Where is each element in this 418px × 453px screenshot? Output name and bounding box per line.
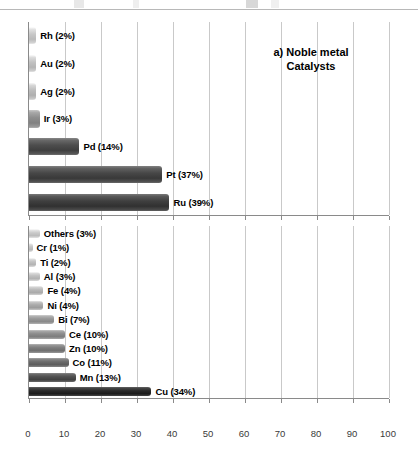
- gridline-50: [209, 226, 210, 398]
- bar-cr: [29, 243, 33, 252]
- x-tick-40: [173, 399, 174, 403]
- bar-row: Co (11%): [29, 358, 112, 367]
- x-tick-100: [389, 216, 390, 220]
- bar-label-cr: Cr (1%): [37, 242, 70, 253]
- x-axis-label-0: 0: [25, 428, 30, 439]
- gridline-40: [173, 22, 174, 215]
- x-tick-50: [209, 216, 210, 220]
- x-tick-10: [65, 216, 66, 220]
- x-tick-60: [245, 216, 246, 220]
- bar-ir: [29, 110, 40, 127]
- x-axis-tick-labels: 0102030405060708090100: [0, 428, 418, 444]
- x-tick-80: [317, 399, 318, 403]
- bar-row: Mn (13%): [29, 373, 121, 382]
- bar-row: Fe (4%): [29, 286, 80, 295]
- x-tick-20: [101, 216, 102, 220]
- bar-row: Cu (34%): [29, 387, 195, 396]
- bar-pd: [29, 138, 79, 155]
- x-axis-label-90: 90: [347, 428, 358, 439]
- gridline-100: [389, 22, 390, 215]
- bar-ag: [29, 83, 36, 100]
- gridline-30: [137, 226, 138, 398]
- x-axis-label-80: 80: [311, 428, 322, 439]
- bar-row: Ru (39%): [29, 194, 213, 211]
- bar-row: Au (2%): [29, 55, 75, 72]
- bar-label-pt: Pt (37%): [166, 169, 203, 180]
- x-axis-label-50: 50: [203, 428, 214, 439]
- bar-label-cu: Cu (34%): [155, 386, 195, 397]
- bar-al: [29, 272, 40, 281]
- x-axis-label-70: 70: [275, 428, 286, 439]
- bar-ti: [29, 258, 36, 267]
- x-axis-label-40: 40: [167, 428, 178, 439]
- gridline-70: [281, 226, 282, 398]
- bar-row: Others (3%): [29, 229, 96, 238]
- bar-others: [29, 229, 40, 238]
- bar-label-bi: Bi (7%): [58, 314, 90, 325]
- x-axis-label-10: 10: [59, 428, 70, 439]
- bar-ru: [29, 194, 169, 211]
- bar-row: Ce (10%): [29, 330, 108, 339]
- bar-fe: [29, 286, 43, 295]
- bar-label-ru: Ru (39%): [173, 197, 213, 208]
- x-tick-20: [101, 399, 102, 403]
- bar-rh: [29, 27, 36, 44]
- bar-row: Al (3%): [29, 272, 75, 281]
- bar-label-ni: Ni (4%): [47, 300, 79, 311]
- gridline-50: [209, 22, 210, 215]
- bar-row: Zn (10%): [29, 344, 108, 353]
- gridline-90: [353, 226, 354, 398]
- bar-row: Cr (1%): [29, 243, 69, 252]
- bar-row: Bi (7%): [29, 315, 90, 324]
- bar-bi: [29, 315, 54, 324]
- x-tick-50: [209, 399, 210, 403]
- bar-label-zn: Zn (10%): [69, 343, 108, 354]
- figure-catalyst-distribution: Rh (2%)Au (2%)Ag (2%)Ir (3%)Pd (14%)Pt (…: [0, 0, 418, 453]
- plot-area-b: Others (3%)Cr (1%)Ti (2%)Al (3%)Fe (4%)N…: [28, 226, 389, 399]
- bar-label-au: Au (2%): [40, 58, 75, 69]
- panel-a-title: a) Noble metal Catalysts: [236, 46, 386, 73]
- bar-row: Rh (2%): [29, 27, 75, 44]
- x-axis-label-30: 30: [131, 428, 142, 439]
- x-tick-70: [281, 216, 282, 220]
- bar-zn: [29, 344, 65, 353]
- x-tick-100: [389, 399, 390, 403]
- x-tick-90: [353, 399, 354, 403]
- gridline-100: [389, 226, 390, 398]
- bar-pt: [29, 166, 162, 183]
- x-tick-90: [353, 216, 354, 220]
- x-axis-label-20: 20: [95, 428, 106, 439]
- x-tick-30: [137, 216, 138, 220]
- bar-ce: [29, 330, 65, 339]
- x-tick-60: [245, 399, 246, 403]
- bar-row: Pd (14%): [29, 138, 123, 155]
- bar-co: [29, 358, 69, 367]
- gridline-40: [173, 226, 174, 398]
- x-axis-label-100: 100: [380, 428, 396, 439]
- x-tick-0: [29, 216, 30, 220]
- bar-row: Pt (37%): [29, 166, 203, 183]
- x-tick-80: [317, 216, 318, 220]
- bar-label-pd: Pd (14%): [83, 141, 122, 152]
- bar-label-fe: Fe (4%): [47, 285, 80, 296]
- x-tick-40: [173, 216, 174, 220]
- x-tick-70: [281, 399, 282, 403]
- gridline-60: [245, 226, 246, 398]
- bar-ni: [29, 301, 43, 310]
- bar-row: Ag (2%): [29, 83, 75, 100]
- bar-row: Ir (3%): [29, 110, 72, 127]
- bar-label-mn: Mn (13%): [80, 372, 121, 383]
- bar-cu: [29, 387, 151, 396]
- bar-row: Ti (2%): [29, 258, 70, 267]
- panel-noble-metal-catalysts: Rh (2%)Au (2%)Ag (2%)Ir (3%)Pd (14%)Pt (…: [0, 22, 418, 218]
- bar-label-ag: Ag (2%): [40, 86, 75, 97]
- x-axis-label-60: 60: [239, 428, 250, 439]
- gridline-30: [137, 22, 138, 215]
- bar-label-others: Others (3%): [44, 228, 96, 239]
- x-tick-30: [137, 399, 138, 403]
- bar-label-ir: Ir (3%): [44, 113, 72, 124]
- bar-label-rh: Rh (2%): [40, 30, 75, 41]
- bar-au: [29, 55, 36, 72]
- x-tick-0: [29, 399, 30, 403]
- bar-label-ce: Ce (10%): [69, 329, 108, 340]
